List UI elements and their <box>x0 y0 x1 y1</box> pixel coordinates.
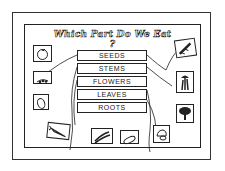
celery-picture[interactable] <box>176 71 194 93</box>
category-flowers[interactable]: FLOWERS <box>77 76 147 87</box>
tomato-icon <box>34 46 51 61</box>
tomato-picture[interactable] <box>33 45 52 62</box>
category-roots[interactable]: ROOTS <box>77 102 147 113</box>
corn-icon <box>175 39 196 57</box>
cauliflower-icon <box>154 126 169 142</box>
cauliflower-picture[interactable] <box>153 125 170 143</box>
category-leaves[interactable]: LEAVES <box>77 89 147 100</box>
celery-icon <box>177 72 193 92</box>
corn-picture[interactable] <box>174 38 197 59</box>
pickle-picture[interactable] <box>120 130 139 144</box>
carrot-icon <box>47 124 69 140</box>
carrot-picture[interactable] <box>46 122 71 140</box>
peas-icon <box>34 76 51 87</box>
category-seeds[interactable]: SEEDS <box>77 50 147 61</box>
peas-picture[interactable] <box>33 71 52 84</box>
green-beans-icon <box>92 130 112 144</box>
pickle-icon <box>121 134 138 146</box>
lettuce-picture[interactable] <box>33 94 49 110</box>
broccoli-icon <box>177 105 193 122</box>
lettuce-icon <box>34 96 48 110</box>
green-beans-picture[interactable] <box>91 128 113 144</box>
category-stems[interactable]: STEMS <box>77 63 147 74</box>
broccoli-picture[interactable] <box>176 104 194 123</box>
